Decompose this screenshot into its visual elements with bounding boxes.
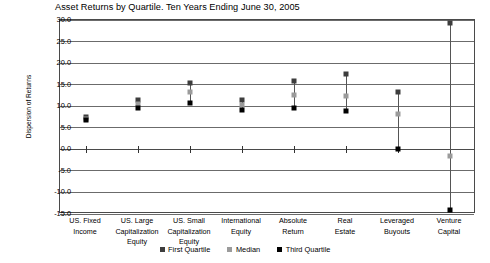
x-axis-tick (86, 146, 87, 153)
gridline (60, 149, 474, 150)
x-axis-tick (346, 146, 347, 153)
data-point-marker (448, 21, 453, 26)
data-point-marker (188, 81, 193, 86)
gridline (60, 214, 474, 215)
data-point-marker (188, 101, 193, 106)
data-point-marker (396, 111, 401, 116)
x-axis-tick (138, 146, 139, 153)
data-point-marker (292, 79, 297, 84)
data-point-marker (188, 89, 193, 94)
quartile-range-line (450, 23, 451, 210)
gridline (60, 84, 474, 85)
legend-label: Third Quartile (286, 245, 331, 254)
y-axis-tick-label: -10.0 (35, 187, 71, 196)
chart-container: Asset Returns by Quartile. Ten Years End… (0, 0, 490, 263)
data-point-marker (396, 147, 401, 152)
chart-title: Asset Returns by Quartile. Ten Years End… (55, 2, 300, 12)
x-axis-category-label: VentureCapital (418, 216, 480, 237)
y-axis-tick-label: 5.0 (35, 122, 71, 131)
y-axis-tick-label: -5.0 (35, 165, 71, 174)
data-point-marker (292, 93, 297, 98)
data-point-marker (136, 105, 141, 110)
quartile-range-line (398, 92, 399, 150)
x-axis-tick (294, 146, 295, 153)
data-point-marker (292, 105, 297, 110)
legend-item[interactable]: First Quartile (160, 245, 211, 254)
legend-swatch-icon (227, 247, 232, 252)
legend-label: First Quartile (168, 245, 210, 254)
y-axis-tick-label: 10.0 (35, 101, 71, 110)
data-point-marker (344, 71, 349, 76)
data-point-marker (344, 108, 349, 113)
legend-swatch-icon (160, 247, 165, 252)
gridline (60, 127, 474, 128)
y-axis-label: Dispersion of Returns (25, 52, 32, 162)
data-point-marker (448, 207, 453, 212)
x-axis-tick (190, 146, 191, 153)
gridline (60, 192, 474, 193)
legend-item[interactable]: Median (227, 245, 260, 254)
x-axis-tick (242, 146, 243, 153)
data-point-marker (396, 89, 401, 94)
data-point-marker (448, 153, 453, 158)
gridline (60, 63, 474, 64)
y-axis-tick-label: 30.0 (35, 15, 71, 24)
y-axis-tick-label: 15.0 (35, 79, 71, 88)
legend-swatch-icon (277, 247, 282, 252)
chart-legend: First QuartileMedianThird Quartile (0, 245, 490, 254)
y-axis-tick-label: 20.0 (35, 58, 71, 67)
y-axis-tick-label: 25.0 (35, 36, 71, 45)
y-axis-tick-label: 0.0 (35, 144, 71, 153)
gridline (60, 106, 474, 107)
quartile-range-line (346, 74, 347, 111)
plot-area (59, 19, 475, 213)
gridline (60, 20, 474, 21)
gridline (60, 170, 474, 171)
data-point-marker (84, 118, 89, 123)
data-point-marker (344, 94, 349, 99)
legend-label: Median (236, 245, 260, 254)
gridline (60, 41, 474, 42)
data-point-marker (240, 107, 245, 112)
legend-item[interactable]: Third Quartile (277, 245, 330, 254)
